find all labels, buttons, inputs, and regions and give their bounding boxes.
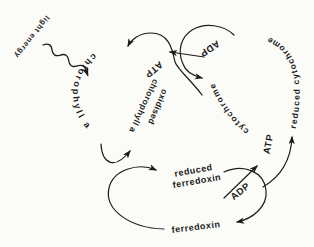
label-light-energy: light energy bbox=[12, 14, 51, 61]
adp-to-atp-arrow-top bbox=[170, 52, 204, 57]
label-atp-top: ATP bbox=[143, 59, 166, 80]
label-adp-bottom: ADP bbox=[228, 180, 252, 202]
label-ferredoxin: ferredoxin bbox=[171, 219, 221, 235]
photosynthesis-cycle-diagram: light energy chlorophyll a oxidised chlo… bbox=[0, 0, 314, 247]
label-reduced-cytochrome: reduced cytochrome bbox=[265, 35, 302, 130]
label-chlorophyll-a: chlorophyll a bbox=[71, 51, 99, 131]
label-reduced-ferredoxin: reduced ferredoxin bbox=[170, 161, 222, 190]
label-cytochrome: cytochrome bbox=[207, 81, 251, 136]
chlorophyll-to-oxidised-arc bbox=[101, 144, 130, 163]
electron-return-to-chlorophyll-arc bbox=[128, 33, 202, 95]
ferredoxin-to-reduced-ferredoxin-arc bbox=[108, 167, 164, 229]
diagram-canvas: light energy chlorophyll a oxidised chlo… bbox=[0, 0, 314, 247]
label-atp-right: ATP bbox=[261, 133, 276, 155]
